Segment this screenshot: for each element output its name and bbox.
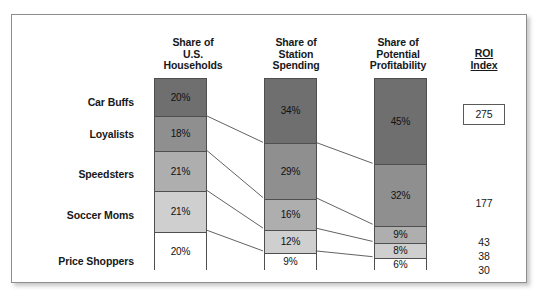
segment-value: 16% <box>281 210 301 220</box>
bar-segment: 45% <box>375 79 426 165</box>
row-label-price-shoppers: Price Shoppers <box>16 255 134 267</box>
segment-value: 32% <box>391 191 411 201</box>
column-header-households: Share of U.S. Households <box>145 37 241 72</box>
row-label-loyalists: Loyalists <box>16 128 134 140</box>
header-line: Share of <box>145 37 241 49</box>
column-header-roi-index: ROI Index <box>456 48 512 71</box>
segment-value: 6% <box>393 260 407 270</box>
segment-value: 20% <box>171 93 191 103</box>
row-label-car-buffs: Car Buffs <box>16 96 134 108</box>
bar-segment: 21% <box>155 192 206 232</box>
roi-index-value-last: 30 <box>463 264 505 276</box>
roi-index-value-price-shoppers: 38 <box>463 250 505 262</box>
bar-segment: 6% <box>375 259 426 271</box>
header-line: ROI <box>456 48 512 60</box>
segment-value: 21% <box>171 167 191 177</box>
segment-value: 29% <box>281 167 301 177</box>
bar-segment: 18% <box>155 117 206 152</box>
header-line: Index <box>456 60 512 72</box>
bar-segment: 16% <box>265 200 316 231</box>
header-line: Share of <box>348 37 448 49</box>
bar-column-profitability: 45% 32% 9% 8% 6% <box>374 78 427 270</box>
bar-segment: 9% <box>375 227 426 244</box>
segment-value: 18% <box>171 129 191 139</box>
column-header-spending: Share of Station Spending <box>248 37 344 72</box>
segment-value: 45% <box>391 117 411 127</box>
header-line: Share of <box>248 37 344 49</box>
bar-column-spending: 34% 29% 16% 12% 9% <box>264 78 317 270</box>
row-label-speedsters: Speedsters <box>16 168 134 180</box>
bar-segment: 21% <box>155 152 206 192</box>
segment-value: 12% <box>281 237 301 247</box>
connector-line <box>206 150 263 198</box>
bar-segment: 29% <box>265 144 316 200</box>
bar-segment: 12% <box>265 231 316 254</box>
bar-segment: 9% <box>265 254 316 271</box>
header-line: Profitability <box>348 60 448 72</box>
connector-line <box>316 198 373 225</box>
chart-card: Share of U.S. Households Share of Statio… <box>11 14 527 283</box>
connector-line <box>206 116 263 143</box>
connector-line <box>316 142 373 163</box>
connector-line <box>316 228 373 241</box>
segment-value: 20% <box>171 247 191 257</box>
connector-line <box>206 230 263 251</box>
bar-segment: 34% <box>265 79 316 144</box>
bar-segment: 20% <box>155 233 206 271</box>
bar-segment: 8% <box>375 244 426 259</box>
segment-value: 8% <box>393 246 407 256</box>
roi-index-value-speedsters: 177 <box>463 197 505 209</box>
header-line: Households <box>145 60 241 72</box>
row-label-soccer-moms: Soccer Moms <box>16 209 134 221</box>
bar-segment: 20% <box>155 79 206 117</box>
segment-value: 9% <box>283 257 297 267</box>
segment-value: 34% <box>281 106 301 116</box>
segment-value: 9% <box>393 230 407 240</box>
segment-value: 21% <box>171 207 191 217</box>
connector-line <box>206 190 263 228</box>
column-header-profitability: Share of Potential Profitability <box>348 37 448 72</box>
roi-index-value-soccer-moms: 43 <box>463 236 505 248</box>
connector-line <box>316 251 373 257</box>
bar-column-households: 20% 18% 21% 21% 20% <box>154 78 207 270</box>
roi-index-value-car-buffs: 275 <box>463 104 505 125</box>
chart-plot-area: Share of U.S. Households Share of Statio… <box>12 15 526 282</box>
bar-segment: 32% <box>375 165 426 226</box>
header-line: Spending <box>248 60 344 72</box>
